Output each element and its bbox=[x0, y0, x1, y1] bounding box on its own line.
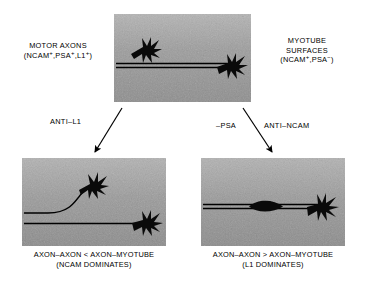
myotube-l3-mid: ,PSA bbox=[309, 55, 327, 64]
figure-root: MOTOR AXONS (NCAM+,PSA+,L1+) MYOTUBE SUR… bbox=[0, 0, 367, 287]
top-panel-graphic bbox=[114, 14, 251, 102]
arrow-label-minus-psa: –PSA bbox=[216, 121, 236, 130]
bottom-left-panel bbox=[22, 158, 166, 246]
arrow-label-anti-l1: ANTI–L1 bbox=[50, 117, 81, 126]
bottom-left-caption: AXON–AXON < AXON–MYOTUBE (NCAM DOMINATES… bbox=[8, 250, 180, 269]
myotube-line1: MYOTUBE bbox=[252, 36, 362, 46]
myotube-surfaces-label: MYOTUBE SURFACES (NCAM+,PSA−) bbox=[252, 36, 362, 65]
bottom-left-caption-line2: (NCAM DOMINATES) bbox=[8, 260, 180, 270]
motor-axons-l2-suffix: ) bbox=[89, 51, 92, 60]
arrow-label-anti-ncam: ANTI–NCAM bbox=[264, 121, 309, 130]
myotube-line3: (NCAM+,PSA−) bbox=[252, 55, 362, 65]
motor-axons-l2-prefix: (NCAM bbox=[24, 51, 49, 60]
bottom-right-caption-line2: (L1 DOMINATES) bbox=[187, 260, 359, 270]
bottom-left-panel-graphic bbox=[22, 158, 166, 246]
bottom-right-caption: AXON–AXON > AXON–MYOTUBE (L1 DOMINATES) bbox=[187, 250, 359, 269]
motor-axons-label: MOTOR AXONS (NCAM+,PSA+,L1+) bbox=[6, 41, 110, 60]
myotube-l3-prefix: (NCAM bbox=[280, 55, 305, 64]
motor-axons-line1: MOTOR AXONS bbox=[6, 41, 110, 51]
bottom-right-panel-graphic bbox=[201, 158, 345, 246]
bottom-right-panel bbox=[201, 158, 345, 246]
bottom-left-caption-line1: AXON–AXON < AXON–MYOTUBE bbox=[8, 250, 180, 260]
top-panel bbox=[114, 14, 251, 102]
arrow-anti-l1 bbox=[95, 108, 122, 152]
motor-axons-l2-mid2: ,L1 bbox=[75, 51, 86, 60]
motor-axons-line2: (NCAM+,PSA+,L1+) bbox=[6, 51, 110, 61]
myotube-l3-suffix: ) bbox=[331, 55, 334, 64]
arrow-anti-ncam bbox=[243, 108, 272, 152]
bottom-right-caption-line1: AXON–AXON > AXON–MYOTUBE bbox=[187, 250, 359, 260]
motor-axons-l2-mid1: ,PSA bbox=[53, 51, 71, 60]
